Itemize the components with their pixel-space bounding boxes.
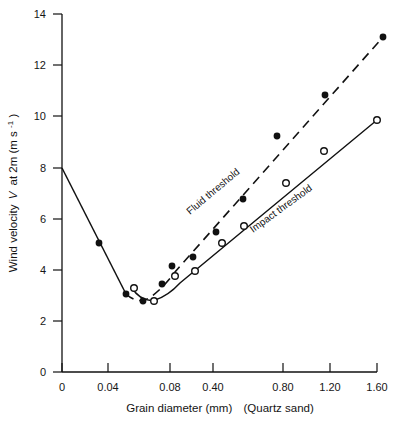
data-point-filled xyxy=(96,240,103,247)
x-axis-title-note: (Quartz sand) xyxy=(243,402,313,414)
fluid-threshold-points xyxy=(96,34,387,305)
x-tick-label-0.04: 0.04 xyxy=(97,381,118,393)
figure-container: 0 2 4 6 8 10 12 14 0 0.04 0.08 0.40 0.80… xyxy=(0,0,401,422)
fluid-threshold-line xyxy=(126,37,383,301)
data-point-filled xyxy=(190,254,197,261)
y-axis-ticks: 0 2 4 6 8 10 12 14 xyxy=(34,8,62,378)
y-tick-label-8: 8 xyxy=(40,162,46,174)
y-tick-label-0: 0 xyxy=(40,366,46,378)
impact-threshold-line xyxy=(131,120,377,300)
y-tick-label-6: 6 xyxy=(40,213,46,225)
data-point-open xyxy=(219,240,226,247)
x-tick-label-1.20: 1.20 xyxy=(319,381,340,393)
y-axis-title-middle: at 2m (m s xyxy=(7,131,19,186)
data-point-open xyxy=(131,285,138,292)
y-tick-label-10: 10 xyxy=(34,110,46,122)
data-point-open xyxy=(283,180,290,187)
y-tick-label-4: 4 xyxy=(40,264,46,276)
y-tick-label-2: 2 xyxy=(40,315,46,327)
data-point-open xyxy=(151,298,158,305)
data-point-open xyxy=(321,148,328,155)
x-tick-label-0: 0 xyxy=(59,381,65,393)
axes xyxy=(62,14,377,372)
threshold-velocity-chart: 0 2 4 6 8 10 12 14 0 0.04 0.08 0.40 0.80… xyxy=(0,0,401,422)
x-tick-label-0.40: 0.40 xyxy=(202,381,223,393)
x-axis-title-main: Grain diameter (mm) xyxy=(126,402,232,414)
y-axis-title-prefix: Wind velocity xyxy=(7,201,19,272)
data-point-filled xyxy=(140,298,147,305)
x-tick-label-0.08: 0.08 xyxy=(159,381,180,393)
annotation-fluid-threshold: Fluid threshold xyxy=(184,166,241,217)
x-tick-label-0.80: 0.80 xyxy=(272,381,293,393)
data-point-filled xyxy=(274,133,281,140)
svg-text:Wind velocity V: Wind velocity V at 2m (m s -1 ) xyxy=(3,114,19,273)
y-tick-label-12: 12 xyxy=(34,59,46,71)
y-axis-title-symbol: V xyxy=(7,190,19,199)
svg-text:Grain diameter (mm) (Q: Grain diameter (mm) (Quartz sand) xyxy=(126,402,314,414)
data-point-filled xyxy=(123,291,130,298)
y-tick-label-14: 14 xyxy=(34,8,46,20)
data-point-open xyxy=(192,268,199,275)
data-point-filled xyxy=(240,196,247,203)
x-axis-title: Grain diameter (mm) (Quartz sand) xyxy=(126,402,314,414)
data-point-open xyxy=(374,117,381,124)
data-point-open xyxy=(241,223,248,230)
data-point-filled xyxy=(322,92,329,99)
impact-threshold-points xyxy=(131,117,381,305)
data-point-open xyxy=(172,273,179,280)
y-axis-title-suffix: ) xyxy=(7,114,19,118)
data-point-filled xyxy=(380,34,387,41)
data-point-filled xyxy=(169,263,176,270)
y-axis-title: Wind velocity V at 2m (m s -1 ) xyxy=(3,114,19,273)
x-axis-ticks: 0 0.04 0.08 0.40 0.80 1.20 1.60 xyxy=(59,363,388,393)
y-axis-title-exponent: -1 xyxy=(6,120,15,128)
data-point-filled xyxy=(213,229,220,236)
fine-grain-branch-line xyxy=(62,168,126,294)
annotation-impact-threshold: Impact threshold xyxy=(248,182,314,234)
x-tick-label-1.60: 1.60 xyxy=(366,381,387,393)
data-point-filled xyxy=(159,281,166,288)
